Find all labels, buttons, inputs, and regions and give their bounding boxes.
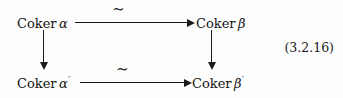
node-coker-beta-prime-mark: ′ bbox=[242, 75, 244, 85]
arrow-top-horizontal-head-icon bbox=[187, 19, 195, 27]
node-coker-alpha-text: Coker bbox=[17, 16, 57, 31]
arrow-right-vertical-head-icon bbox=[208, 62, 216, 70]
arrow-left-vertical bbox=[39, 30, 48, 70]
arrow-top-horizontal bbox=[75, 18, 195, 28]
arrow-right-vertical bbox=[207, 30, 216, 70]
node-coker-alpha: Cokerα bbox=[17, 16, 68, 30]
arrow-right-vertical-shaft bbox=[211, 30, 212, 63]
equation-figure: Cokerα Cokerβ Cokerα′ Cokerβ′ ∼ ∼ (3.2.1… bbox=[0, 0, 343, 98]
arrow-bottom-horizontal bbox=[80, 78, 192, 88]
arrow-left-vertical-shaft bbox=[43, 30, 44, 63]
node-coker-alpha-prime-mark: ′ bbox=[68, 75, 70, 85]
arrow-left-vertical-head-icon bbox=[40, 62, 48, 70]
node-coker-beta-prime-text: Coker bbox=[192, 76, 232, 91]
arrow-top-horizontal-label: ∼ bbox=[112, 2, 125, 17]
arrow-bottom-horizontal-shaft bbox=[80, 82, 185, 83]
arrow-bottom-horizontal-head-icon bbox=[184, 79, 192, 87]
arrow-top-horizontal-shaft bbox=[75, 22, 188, 23]
node-coker-alpha-prime-symbol: α bbox=[57, 76, 68, 91]
node-coker-alpha-prime: Cokerα′ bbox=[17, 76, 70, 90]
node-coker-beta-prime-symbol: β bbox=[232, 76, 242, 91]
arrow-bottom-horizontal-label: ∼ bbox=[116, 62, 129, 77]
node-coker-beta-symbol: β bbox=[236, 16, 246, 31]
node-coker-beta-prime: Cokerβ′ bbox=[192, 76, 244, 90]
node-coker-alpha-prime-text: Coker bbox=[17, 76, 57, 91]
equation-number: (3.2.16) bbox=[284, 42, 334, 55]
node-coker-alpha-symbol: α bbox=[57, 16, 68, 31]
node-coker-beta: Cokerβ bbox=[196, 16, 246, 30]
